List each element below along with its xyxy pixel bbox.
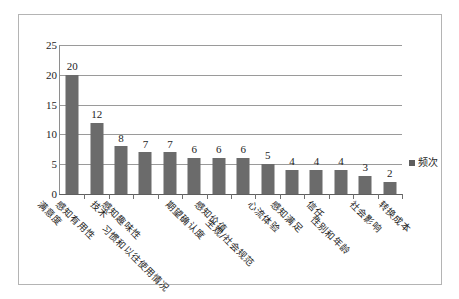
bar-group[interactable]: 4	[329, 45, 353, 194]
category-label-zhuguanshehuiguifan: 主观/社会规范	[204, 217, 256, 269]
bar[interactable]	[383, 182, 396, 194]
bar-value-label: 12	[91, 109, 102, 120]
y-axis-tick-label: 25	[35, 40, 57, 51]
bar[interactable]	[115, 146, 128, 194]
legend-label: 频次	[418, 158, 438, 168]
x-axis-category-labels: 满意度 感知有用性 技术 感知趣味性 习惯和以往使用情况 期望确认度 感知价值 …	[59, 199, 401, 294]
bar-value-label: 4	[338, 156, 344, 167]
bar[interactable]	[188, 158, 201, 194]
bar-value-label: 5	[265, 150, 271, 161]
bar-value-label: 6	[240, 144, 246, 155]
bar-group[interactable]: 2	[378, 45, 402, 194]
bar[interactable]	[212, 158, 225, 194]
bar[interactable]	[163, 152, 176, 194]
bar-group[interactable]: 6	[207, 45, 231, 194]
bar-group[interactable]: 8	[109, 45, 133, 194]
category-label-xingbienianling: 性别和年龄	[309, 214, 351, 256]
bar[interactable]	[139, 152, 152, 194]
bar-group[interactable]: 5	[255, 45, 279, 194]
bar-value-label: 6	[192, 144, 198, 155]
bar-group[interactable]: 4	[304, 45, 328, 194]
bar[interactable]	[310, 170, 323, 194]
chart-frame: 0 5 10 15 20 25 20 12 8 7	[18, 14, 442, 285]
bar-group[interactable]: 3	[353, 45, 377, 194]
bar-group[interactable]: 7	[133, 45, 157, 194]
bar[interactable]	[90, 123, 103, 195]
bar-group[interactable]: 12	[84, 45, 108, 194]
bar-group[interactable]: 6	[182, 45, 206, 194]
bar[interactable]	[261, 164, 274, 194]
y-axis-tick-label: 15	[35, 100, 57, 111]
bar[interactable]	[334, 170, 347, 194]
bar-value-label: 8	[118, 133, 124, 144]
bar-group[interactable]: 4	[280, 45, 304, 194]
bar-value-label: 4	[289, 156, 295, 167]
category-label-zhuanhuanchengben: 转换成本	[377, 199, 412, 234]
bar-value-label: 3	[363, 162, 369, 173]
bar[interactable]	[237, 158, 250, 194]
bar-value-label: 2	[387, 168, 393, 179]
y-axis: 0 5 10 15 20 25	[31, 45, 57, 194]
legend: 频次	[409, 158, 438, 168]
x-axis-tick-mark	[402, 194, 403, 199]
bar-value-label: 6	[216, 144, 222, 155]
legend-swatch-icon	[409, 160, 415, 166]
y-axis-tick-label: 0	[35, 189, 57, 200]
y-axis-tick-label: 10	[35, 129, 57, 140]
bar-value-label: 7	[167, 139, 173, 150]
y-axis-tick-label: 5	[35, 159, 57, 170]
bar-value-label: 4	[314, 156, 320, 167]
y-axis-tick-label: 20	[35, 70, 57, 81]
bar-group[interactable]: 6	[231, 45, 255, 194]
bar[interactable]	[66, 75, 79, 194]
bar-group[interactable]: 7	[158, 45, 182, 194]
bar-group[interactable]: 20	[60, 45, 84, 194]
plot-area: 20 12 8 7 7 6 6 6	[59, 45, 401, 194]
bar[interactable]	[359, 176, 372, 194]
bar-value-label: 7	[143, 139, 149, 150]
bar[interactable]	[286, 170, 299, 194]
bar-value-label: 20	[67, 61, 78, 72]
